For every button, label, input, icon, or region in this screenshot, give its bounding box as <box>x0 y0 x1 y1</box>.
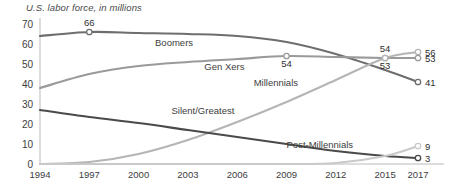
chart-plot-area: 010203040506070 199419972000200320062009… <box>0 0 452 188</box>
y-axis-tick-label: 60 <box>22 39 34 50</box>
data-point-marker <box>415 143 420 148</box>
data-point-label: 9 <box>425 141 430 152</box>
series-group <box>40 32 418 164</box>
data-point-marker <box>87 29 92 34</box>
data-point-label: 3 <box>425 153 430 164</box>
y-axis-tick-label: 40 <box>22 79 34 90</box>
x-axis-tick-label: 2015 <box>375 169 396 180</box>
series-label-silent-greatest: Silent/Greatest <box>171 105 234 116</box>
y-axis-tick-label: 70 <box>22 19 34 30</box>
data-point-marker <box>415 79 420 84</box>
data-point-label: 54 <box>281 58 292 69</box>
x-axis-tick-label: 1994 <box>29 169 50 180</box>
data-point-label: 53 <box>380 60 391 71</box>
y-axis-tick-label: 30 <box>22 99 34 110</box>
x-axis-tick-label: 1997 <box>79 169 100 180</box>
data-point-marker <box>415 49 420 54</box>
x-axis-group: 199419972000200320062009201220152017 <box>29 164 444 180</box>
x-axis-tick-label: 2000 <box>128 169 149 180</box>
data-point-label: 54 <box>380 43 391 54</box>
x-axis-tick-label: 2003 <box>177 169 198 180</box>
data-point-label: 66 <box>84 17 95 28</box>
y-axis-tick-label: 0 <box>27 159 33 170</box>
data-point-marker <box>415 155 420 160</box>
series-label-gen-xers: Gen Xers <box>204 61 244 72</box>
data-point-label: 53 <box>425 53 436 64</box>
labor-force-line-chart: U.S. labor force, in millions 0102030405… <box>0 0 452 188</box>
x-axis-tick-label: 2017 <box>407 169 428 180</box>
x-axis-tick-label: 2012 <box>325 169 346 180</box>
series-label-post-millennials: Post-Millennials <box>287 139 354 150</box>
y-axis-group: 010203040506070 <box>22 18 40 170</box>
series-label-boomers: Boomers <box>155 37 193 48</box>
data-point-marker <box>415 55 420 60</box>
y-axis-tick-label: 10 <box>22 139 34 150</box>
series-line-silent-greatest <box>40 110 418 158</box>
data-point-label: 41 <box>425 77 436 88</box>
x-axis-tick-label: 2006 <box>227 169 248 180</box>
series-label-group: BoomersGen XersMillennialsSilent/Greates… <box>155 37 353 150</box>
y-axis-tick-label: 50 <box>22 59 34 70</box>
y-axis-tick-label: 20 <box>22 119 34 130</box>
series-label-millennials: Millennials <box>254 77 299 88</box>
x-axis-tick-label: 2009 <box>276 169 297 180</box>
